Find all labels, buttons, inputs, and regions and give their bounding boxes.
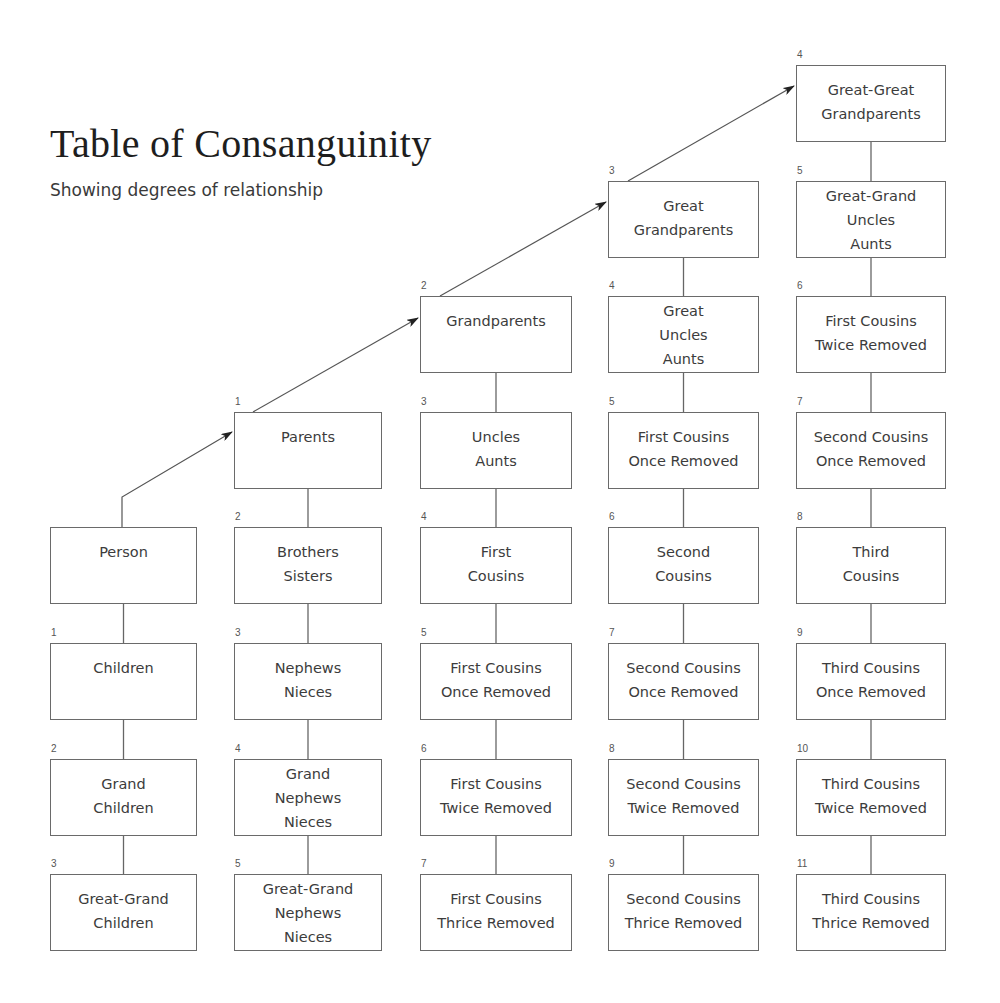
relation-label-line: Nieces: [284, 925, 332, 949]
relation-box: Second CousinsTwice Removed: [608, 759, 759, 836]
relation-label-line: Second Cousins: [626, 887, 741, 911]
relation-label-line: Once Removed: [628, 449, 738, 473]
relation-label-line: Great: [663, 299, 703, 323]
degree-number: 3: [235, 627, 241, 638]
relation-label-line: Children: [93, 796, 153, 820]
relation-box: Second CousinsOnce Removed: [608, 643, 759, 720]
relation-label-line: Uncles: [472, 425, 520, 449]
arrow-grandparents-to-great-grandparents: [440, 202, 606, 296]
relation-label-line: Cousins: [468, 564, 525, 588]
relation-label-line: Once Removed: [628, 680, 738, 704]
degree-number: 1: [51, 627, 57, 638]
relation-box: Children: [50, 643, 197, 720]
degree-number: 3: [609, 165, 615, 176]
relation-box: FirstCousins: [420, 527, 572, 604]
degree-number: 4: [797, 49, 803, 60]
relation-label-line: Once Removed: [441, 680, 551, 704]
relation-label-line: Grand: [101, 772, 145, 796]
degree-number: 6: [609, 511, 615, 522]
relation-box: Great-GrandUnclesAunts: [796, 181, 946, 258]
relation-box: First CousinsOnce Removed: [608, 412, 759, 489]
relation-label-line: Brothers: [277, 540, 339, 564]
relation-label-line: Great-Grand: [263, 877, 354, 901]
degree-number: 8: [609, 743, 615, 754]
degree-number: 3: [51, 858, 57, 869]
relation-box: Great-GrandNephewsNieces: [234, 874, 382, 951]
relation-label-line: Grandparents: [821, 102, 921, 126]
relation-label-line: Aunts: [850, 232, 892, 256]
relation-label-line: Twice Removed: [815, 796, 927, 820]
relation-label-line: Third Cousins: [822, 772, 920, 796]
relation-label-line: Nephews: [275, 656, 342, 680]
relation-label-line: Once Removed: [816, 680, 926, 704]
relation-box: GreatUnclesAunts: [608, 296, 759, 373]
relation-box: UnclesAunts: [420, 412, 572, 489]
relation-label-line: Grandparents: [634, 218, 734, 242]
relation-box: First CousinsTwice Removed: [796, 296, 946, 373]
relation-box: First CousinsOnce Removed: [420, 643, 572, 720]
relation-box: Grandparents: [420, 296, 572, 373]
relation-label-line: Great-Grand: [826, 184, 917, 208]
relation-label-line: Thrice Removed: [812, 911, 930, 935]
relation-label-line: Uncles: [847, 208, 895, 232]
relation-box: SecondCousins: [608, 527, 759, 604]
degree-number: 6: [797, 280, 803, 291]
relation-label-line: Person: [99, 540, 148, 564]
relation-box: Great-GreatGrandparents: [796, 65, 946, 142]
relation-box: GrandChildren: [50, 759, 197, 836]
relation-label-line: Once Removed: [816, 449, 926, 473]
relation-box: Second CousinsOnce Removed: [796, 412, 946, 489]
degree-number: 10: [797, 743, 808, 754]
degree-number: 2: [235, 511, 241, 522]
relation-label-line: First Cousins: [638, 425, 730, 449]
relation-box: GrandNephewsNieces: [234, 759, 382, 836]
degree-number: 8: [797, 511, 803, 522]
degree-number: 4: [609, 280, 615, 291]
relation-box: Parents: [234, 412, 382, 489]
degree-number: 7: [421, 858, 427, 869]
relation-box: Second CousinsThrice Removed: [608, 874, 759, 951]
relation-label-line: Second Cousins: [626, 656, 741, 680]
relation-label-line: Aunts: [475, 449, 517, 473]
relation-box: ThirdCousins: [796, 527, 946, 604]
relation-box: NephewsNieces: [234, 643, 382, 720]
arrow-great-to-great-great-grandparents: [628, 86, 794, 181]
degree-number: 7: [797, 396, 803, 407]
degree-number: 9: [609, 858, 615, 869]
relation-label-line: Uncles: [659, 323, 707, 347]
relation-label-line: Aunts: [663, 347, 705, 371]
degree-number: 4: [421, 511, 427, 522]
relation-label-line: First Cousins: [450, 887, 542, 911]
arrow-parents-to-grandparents: [253, 318, 418, 412]
relation-label-line: Thrice Removed: [437, 911, 555, 935]
degree-number: 9: [797, 627, 803, 638]
relation-label-line: Nieces: [284, 680, 332, 704]
degree-number: 6: [421, 743, 427, 754]
degree-number: 2: [51, 743, 57, 754]
relation-label-line: Parents: [281, 425, 335, 449]
relation-box: First CousinsThrice Removed: [420, 874, 572, 951]
relation-label-line: Grandparents: [446, 309, 546, 333]
relation-label-line: Great-Great: [828, 78, 915, 102]
relation-label-line: Children: [93, 656, 153, 680]
relation-box: BrothersSisters: [234, 527, 382, 604]
degree-number: 4: [235, 743, 241, 754]
relation-label-line: First Cousins: [825, 309, 917, 333]
connector-lines: [0, 0, 1000, 1003]
relation-label-line: Grand: [286, 762, 330, 786]
relation-label-line: Children: [93, 911, 153, 935]
relation-label-line: Thrice Removed: [625, 911, 743, 935]
relation-label-line: Third Cousins: [822, 887, 920, 911]
degree-number: 3: [421, 396, 427, 407]
relation-label-line: Sisters: [284, 564, 333, 588]
relation-label-line: Cousins: [655, 564, 712, 588]
relation-label-line: Third Cousins: [822, 656, 920, 680]
relation-box: Third CousinsOnce Removed: [796, 643, 946, 720]
relation-label-line: Nephews: [275, 786, 342, 810]
degree-number: 5: [797, 165, 803, 176]
degree-number: 11: [797, 858, 807, 869]
relation-box: Great-GrandChildren: [50, 874, 197, 951]
relation-label-line: Third: [853, 540, 890, 564]
relation-box: Third CousinsThrice Removed: [796, 874, 946, 951]
degree-number: 7: [609, 627, 615, 638]
